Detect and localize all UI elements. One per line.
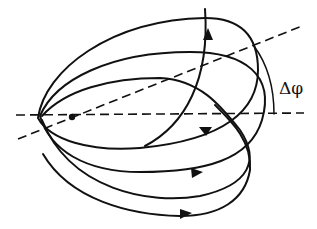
center-dot: [69, 114, 75, 120]
orbit-loop-2: [40, 52, 265, 172]
angle-label-delta-phi: Δφ: [279, 80, 303, 97]
precession-diagram: Δφ: [0, 0, 317, 229]
diagram-canvas: [0, 0, 317, 229]
arrow-right-2-icon: [191, 168, 203, 178]
arrow-up-icon: [203, 28, 213, 40]
arrow-right-3-icon: [180, 209, 192, 219]
orbit-loop-4: [43, 105, 250, 216]
orbit-loop-1: [38, 18, 258, 149]
rotated-reference-line: [18, 26, 302, 139]
orbit-loop-3: [42, 78, 250, 198]
horizontal-reference-line: [16, 113, 304, 115]
